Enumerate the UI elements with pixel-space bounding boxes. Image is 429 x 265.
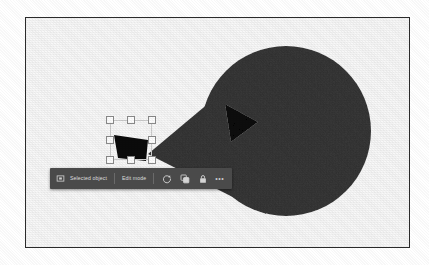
rotate-icon[interactable] <box>160 172 174 186</box>
toolbar-divider-1 <box>114 173 115 184</box>
edit-mode-label: Edit mode <box>119 176 149 181</box>
duplicate-icon[interactable] <box>178 172 192 186</box>
main-circle <box>201 46 371 216</box>
lock-icon[interactable] <box>196 172 210 186</box>
resize-handle-w[interactable] <box>106 136 114 144</box>
selection-bounding-box <box>110 120 152 160</box>
canvas-surface[interactable]: Selected object Edit mode <box>26 18 409 247</box>
resize-handle-nw[interactable] <box>106 116 114 124</box>
resize-handle-s[interactable] <box>127 156 135 164</box>
resize-handle-n[interactable] <box>127 116 135 124</box>
resize-handle-e[interactable] <box>148 136 156 144</box>
page-root: Selected object Edit mode <box>0 0 429 265</box>
canvas-frame: Selected object Edit mode <box>25 17 410 248</box>
resize-handle-se[interactable] <box>148 156 156 164</box>
selected-object-label: Selected object <box>67 176 110 181</box>
toolbar-divider-2 <box>153 173 154 184</box>
resize-handle-sw[interactable] <box>106 156 114 164</box>
resize-handle-ne[interactable] <box>148 116 156 124</box>
more-options-button[interactable]: ••• <box>212 175 227 182</box>
rectangle-select-icon <box>54 172 67 185</box>
artwork-layer <box>26 18 410 248</box>
context-toolbar[interactable]: Selected object Edit mode <box>50 168 232 189</box>
selection-overlay[interactable] <box>110 120 152 160</box>
